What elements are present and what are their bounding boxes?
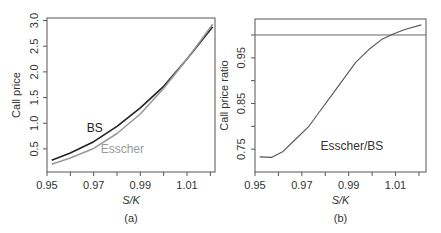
y-axis-title: Call price ratio <box>218 60 230 130</box>
x-tick-label: 0.95 <box>36 179 57 191</box>
series-annotation: BS <box>87 121 103 135</box>
series-line-bs <box>52 27 213 161</box>
x-tick-label: 0.97 <box>83 179 104 191</box>
panel-b: 0.950.970.991.010.750.850.95Esscher/BSS/… <box>218 19 426 224</box>
y-tick-label: 0.85 <box>235 93 247 114</box>
figure: 0.950.970.991.010.51.01.52.02.53.0BSEssc… <box>0 0 441 233</box>
y-tick-label: 0.75 <box>235 138 247 159</box>
x-tick-label: 0.99 <box>130 179 151 191</box>
y-tick-label: 1.5 <box>28 90 40 105</box>
y-tick-label: 3.0 <box>28 13 40 28</box>
x-tick-label: 1.01 <box>385 179 406 191</box>
x-tick-label: 0.95 <box>244 179 265 191</box>
panel-caption: (a) <box>124 212 137 224</box>
panel-a: 0.950.970.991.010.51.01.52.02.53.0BSEssc… <box>10 13 215 224</box>
y-tick-label: 2.0 <box>28 64 40 79</box>
y-tick-label: 2.5 <box>28 39 40 54</box>
series-annotation: Esscher/BS <box>321 139 384 153</box>
y-tick-label: 0.5 <box>28 141 40 156</box>
y-axis-title: Call price <box>10 72 22 118</box>
x-axis-title: S/K <box>332 194 350 206</box>
x-tick-label: 1.01 <box>176 179 197 191</box>
x-tick-label: 0.99 <box>338 179 359 191</box>
y-tick-label: 0.95 <box>235 47 247 68</box>
x-axis-title: S/K <box>122 194 140 206</box>
panel-caption: (b) <box>334 212 347 224</box>
series-line-esscher-bs <box>260 25 422 158</box>
x-tick-label: 0.97 <box>291 179 312 191</box>
y-tick-label: 1.0 <box>28 116 40 131</box>
series-annotation: Esscher <box>101 142 144 156</box>
